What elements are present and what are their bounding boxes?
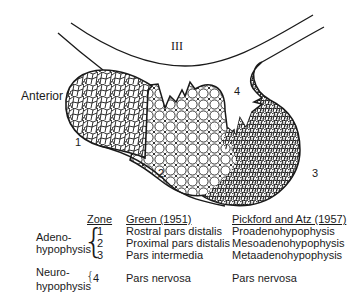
row-green-2: Proximal pars distalis <box>126 237 230 249</box>
zone-4-label: 4 <box>234 85 240 97</box>
row-zone-1: 1 <box>97 225 103 237</box>
row-pickford-4: Pars nervosa <box>232 272 297 284</box>
ventricle-lower-wall-right <box>262 27 324 62</box>
row-pickford-2: Mesoadenohypophysis <box>232 237 345 249</box>
row-zone-4: 4 <box>93 272 99 284</box>
row-zone-2: 2 <box>97 237 103 249</box>
zone-2-label: 2 <box>158 167 164 179</box>
legend-header-green: Green (1951) <box>126 213 191 225</box>
row-green-4: Pars nervosa <box>126 272 191 284</box>
zone-3-label: 3 <box>312 167 318 179</box>
row-green-3: Pars intermedia <box>126 249 203 261</box>
row-green-1: Rostral pars distalis <box>126 225 222 237</box>
group-neurohypophysis-line1: Neuro- <box>36 266 70 278</box>
group-adenohypophysis-line1: Adeno- <box>36 231 71 243</box>
row-pickford-1: Proadenohypophysis <box>232 225 335 237</box>
third-ventricle-label: III <box>171 40 183 52</box>
group-neurohypophysis-line2: hypophysis <box>36 280 91 292</box>
legend-header-pickford: Pickford and Atz (1957) <box>232 213 346 225</box>
zone-1-label: 1 <box>75 136 81 148</box>
row-pickford-3: Metaadenohypophysis <box>232 249 342 261</box>
ventricle-upper-wall <box>71 15 313 66</box>
anterior-label: Anterior <box>21 90 63 102</box>
row-zone-3: 3 <box>97 249 103 261</box>
